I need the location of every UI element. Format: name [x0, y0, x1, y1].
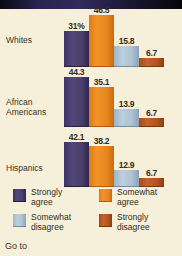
group-label-whites: Whites — [6, 35, 64, 45]
bar-group-whites: Whites 31% 46.5 15.8 6.7 — [0, 9, 182, 67]
legend-item-somewhat-disagree[interactable]: Somewhat disagree — [13, 213, 89, 232]
bar-rect[interactable] — [139, 118, 164, 127]
bar-whites-strongly-disagree[interactable]: 6.7 — [139, 9, 164, 67]
bar-group-hispanics: Hispanics 42.1 38.2 12.9 6.7 — [0, 129, 182, 187]
legend-item-somewhat-agree[interactable]: Somewhat agree — [99, 188, 179, 207]
legend-swatch-strongly-agree-icon — [13, 189, 26, 202]
bar-whites-somewhat-disagree[interactable]: 15.8 — [114, 9, 139, 67]
bar-african-americans-somewhat-disagree[interactable]: 13.9 — [114, 69, 139, 127]
bar-group-african-americans: African Americans 44.3 35.1 13.9 6.7 — [0, 69, 182, 127]
group-label-african-americans: African Americans — [6, 97, 64, 117]
bar-whites-strongly-agree-rect[interactable] — [64, 9, 89, 67]
bar-african-americans-somewhat-agree[interactable]: 35.1 — [89, 69, 114, 127]
bar-african-americans-strongly-disagree[interactable]: 6.7 — [139, 69, 164, 127]
chart-legend: Strongly agree Somewhat agree Somewhat d… — [0, 188, 182, 240]
legend-label: Somewhat disagree — [31, 213, 71, 232]
bars-whites: 31% 46.5 15.8 6.7 — [64, 9, 164, 67]
bar-hispanics-somewhat-disagree[interactable]: 12.9 — [114, 129, 139, 187]
bars-hispanics: 42.1 38.2 12.9 6.7 — [64, 129, 164, 187]
bar-value-label: 6.7 — [135, 108, 169, 118]
bar-hispanics-strongly-disagree[interactable]: 6.7 — [139, 129, 164, 187]
go-to-link[interactable]: Go to — [5, 241, 27, 251]
bar-rect[interactable] — [64, 142, 89, 187]
group-label-hispanics: Hispanics — [6, 163, 64, 173]
legend-label: Strongly agree — [31, 188, 62, 207]
legend-swatch-strongly-disagree-icon — [99, 214, 112, 227]
bar-rect[interactable] — [139, 178, 164, 187]
legend-item-strongly-disagree[interactable]: Strongly disagree — [99, 213, 179, 232]
bar-value-label: 6.7 — [135, 168, 169, 178]
legend-label: Strongly disagree — [117, 213, 150, 232]
legend-label: Somewhat agree — [117, 188, 157, 207]
grouped-bar-chart: Whites 31% 46.5 15.8 6.7 African Am — [0, 9, 182, 187]
bar-rect[interactable] — [64, 31, 89, 67]
bar-hispanics-somewhat-agree[interactable]: 38.2 — [89, 129, 114, 187]
legend-swatch-somewhat-disagree-icon — [13, 214, 26, 227]
legend-item-strongly-agree[interactable]: Strongly agree — [13, 188, 89, 207]
bar-value-label: 6.7 — [135, 48, 169, 58]
bar-rect[interactable] — [139, 58, 164, 67]
bars-african-americans: 44.3 35.1 13.9 6.7 — [64, 69, 164, 127]
legend-swatch-somewhat-agree-icon — [99, 189, 112, 202]
